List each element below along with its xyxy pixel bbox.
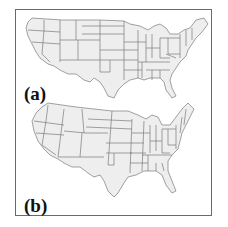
us-states-map-b	[28, 101, 196, 201]
us-map-panel-b	[28, 101, 196, 201]
us-map-panel-a	[20, 14, 212, 100]
panel-label-b: (b)	[24, 196, 47, 215]
us-states-map-a	[20, 14, 212, 100]
